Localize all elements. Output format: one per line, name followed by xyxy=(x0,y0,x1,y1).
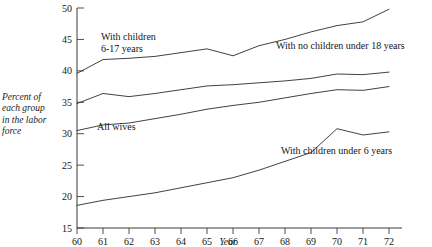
y-tick-label: 40 xyxy=(62,65,72,76)
x-tick-label: 60 xyxy=(72,236,82,247)
y-tick-label: 50 xyxy=(62,3,72,14)
x-tick-label: 61 xyxy=(98,236,108,247)
y-tick-label: 15 xyxy=(62,223,72,234)
y-axis-ticks: 1520253035404550 xyxy=(62,3,84,234)
chart-plot-area: 1520253035404550 60616263646566676869707… xyxy=(0,0,432,247)
chart-figure: Percent of each group in the labor force… xyxy=(0,0,432,247)
y-tick-label: 35 xyxy=(62,97,72,108)
x-axis-title: Year xyxy=(219,237,236,247)
x-tick-label: 71 xyxy=(358,236,368,247)
x-tick-label: 65 xyxy=(202,236,212,247)
series-line xyxy=(77,129,389,206)
x-tick-label: 62 xyxy=(124,236,134,247)
x-tick-label: 70 xyxy=(332,236,342,247)
x-tick-label: 63 xyxy=(150,236,160,247)
x-tick-label: 68 xyxy=(280,236,290,247)
x-tick-label: 72 xyxy=(384,236,394,247)
annot-children-6-17-line1: With children xyxy=(101,31,156,42)
x-tick-label: 69 xyxy=(306,236,316,247)
x-tick-label: 64 xyxy=(176,236,186,247)
x-tick-label: 67 xyxy=(254,236,264,247)
y-tick-label: 20 xyxy=(62,191,72,202)
annot-no-children-under-18: With no children under 18 years xyxy=(276,40,405,51)
annot-all-wives: All wives xyxy=(97,121,136,132)
series-line xyxy=(77,72,389,103)
annot-children-under-6: With children under 6 years xyxy=(281,145,392,156)
annot-children-6-17-line2: 6-17 years xyxy=(101,43,143,54)
y-tick-label: 30 xyxy=(62,128,72,139)
y-tick-label: 45 xyxy=(62,34,72,45)
y-tick-label: 25 xyxy=(62,160,72,171)
